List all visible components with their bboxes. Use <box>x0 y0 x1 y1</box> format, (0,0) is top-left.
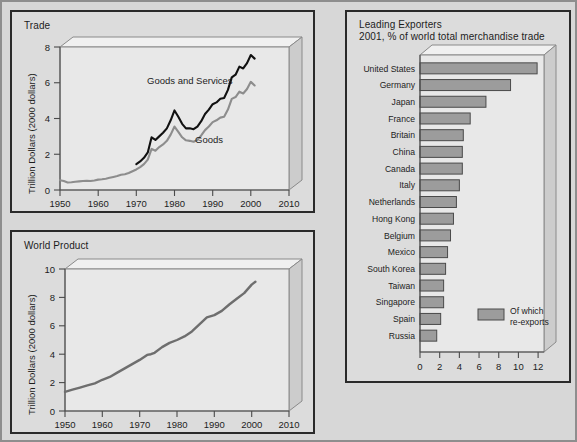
bar-taiwan <box>420 280 444 291</box>
trade-ytick-0: 0 <box>45 185 50 196</box>
exporters-xtick-4: 4 <box>457 361 462 372</box>
annotation-goods: Goods <box>195 134 223 145</box>
bar-china <box>420 146 462 157</box>
trade-xtick-1950: 1950 <box>49 198 70 209</box>
wp-xtick-1980: 1980 <box>166 419 187 430</box>
wp-xtick-2000: 2000 <box>241 419 262 430</box>
trade-ytick-6: 6 <box>45 77 50 88</box>
wp-xtick-1990: 1990 <box>204 419 225 430</box>
world-product-chart: 0 2 4 6 8 10 1950 1960 1970 1980 1990 20… <box>12 232 313 432</box>
wp-ytick-10: 10 <box>44 264 55 275</box>
exporters-xtick-10: 10 <box>513 361 524 372</box>
category-label-singapore: Singapore <box>376 297 415 307</box>
category-label-russia: Russia <box>389 331 415 341</box>
category-label-taiwan: Taiwan <box>388 281 415 291</box>
category-label-netherlands: Netherlands <box>369 197 415 207</box>
wp-xtick-1960: 1960 <box>92 419 113 430</box>
category-label-japan: Japan <box>392 97 416 107</box>
category-label-britain: Britain <box>391 130 416 140</box>
category-label-united-states: United States <box>363 64 415 74</box>
bar-germany <box>420 80 511 91</box>
bar-singapore <box>420 297 444 308</box>
exporters-xtick-0: 0 <box>417 361 422 372</box>
trade-ytick-2: 2 <box>45 149 50 160</box>
bar-hong-kong <box>420 213 453 224</box>
wp-xtick-2010: 2010 <box>278 419 299 430</box>
trade-chart: 0 2 4 6 8 1950 1960 1970 1980 1990 2000 … <box>12 12 313 211</box>
trade-xtick-2000: 2000 <box>240 198 261 209</box>
leading-exporters-chart: United StatesGermanyJapanFranceBritainCh… <box>347 12 569 381</box>
bar-britain <box>420 130 463 141</box>
wp-ytick-2: 2 <box>50 377 55 388</box>
legend-label-line1: Of which <box>510 306 544 316</box>
panel-leading-exporters: Leading Exporters 2001, % of world total… <box>345 10 571 383</box>
bar-france <box>420 113 470 124</box>
legend-label-line2: re-exports <box>510 317 549 327</box>
bar-mexico <box>420 247 448 258</box>
bar-united-states <box>420 63 537 74</box>
category-label-france: France <box>388 114 415 124</box>
bar-italy <box>420 180 459 191</box>
wp-xtick-1950: 1950 <box>54 419 75 430</box>
category-label-germany: Germany <box>380 80 416 90</box>
bar-belgium <box>420 230 451 241</box>
category-label-hong-kong: Hong Kong <box>372 214 415 224</box>
category-label-italy: Italy <box>399 180 415 190</box>
trade-xtick-1960: 1960 <box>88 198 109 209</box>
bar-japan <box>420 96 486 107</box>
category-label-china: China <box>393 147 416 157</box>
annotation-goods-and-services: Goods and Services <box>147 75 233 86</box>
wp-xtick-1970: 1970 <box>129 419 150 430</box>
panel-trade: Trade Trillion Dollars (2000 dollars) <box>10 10 315 213</box>
bar-south-korea <box>420 263 446 274</box>
figure-container: Trade Trillion Dollars (2000 dollars) <box>0 0 577 442</box>
bar-russia <box>420 330 437 341</box>
category-label-belgium: Belgium <box>384 231 415 241</box>
trade-xtick-2010: 2010 <box>278 198 299 209</box>
panel-world-product: World Product Trillion Dollars (2000 dol… <box>10 230 315 434</box>
exporters-xtick-12: 12 <box>533 361 544 372</box>
category-label-canada: Canada <box>385 164 415 174</box>
wp-ytick-4: 4 <box>50 349 55 360</box>
bar-netherlands <box>420 197 456 208</box>
trade-xtick-1980: 1980 <box>164 198 185 209</box>
exporters-xtick-8: 8 <box>496 361 501 372</box>
bar-spain <box>420 313 441 324</box>
trade-xtick-1970: 1970 <box>126 198 147 209</box>
exporters-xtick-2: 2 <box>437 361 442 372</box>
exporters-xtick-6: 6 <box>476 361 481 372</box>
trade-xtick-1990: 1990 <box>202 198 223 209</box>
wp-ytick-8: 8 <box>50 292 55 303</box>
category-label-group: United StatesGermanyJapanFranceBritainCh… <box>363 64 415 341</box>
wp-ytick-0: 0 <box>50 406 55 417</box>
legend-swatch <box>478 309 504 320</box>
trade-ytick-4: 4 <box>45 113 50 124</box>
category-label-south-korea: South Korea <box>367 264 415 274</box>
trade-ytick-8: 8 <box>45 42 50 53</box>
category-label-mexico: Mexico <box>388 247 415 257</box>
category-label-spain: Spain <box>393 314 415 324</box>
bar-canada <box>420 163 462 174</box>
wp-ytick-6: 6 <box>50 320 55 331</box>
